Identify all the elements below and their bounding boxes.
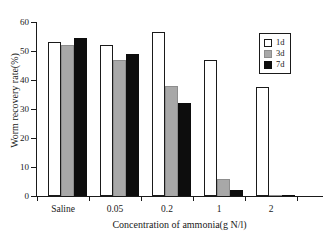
bar-3d-Saline xyxy=(61,45,74,196)
y-tick-label: 60 xyxy=(3,18,29,27)
bar-7d-Saline xyxy=(74,38,87,196)
y-tick-label: 30 xyxy=(3,105,29,114)
bar-7d-2 xyxy=(282,195,295,196)
y-tick-label: 50 xyxy=(3,47,29,56)
bar-1d-2 xyxy=(256,87,269,196)
y-tick xyxy=(31,196,36,197)
legend-item-7d: 7d xyxy=(264,59,285,70)
x-tick-label-Saline: Saline xyxy=(33,204,93,214)
bar-7d-1 xyxy=(230,190,243,196)
x-axis-line xyxy=(36,196,323,197)
bar-3d-1 xyxy=(217,179,230,196)
y-tick xyxy=(31,167,36,168)
y-tick xyxy=(31,138,36,139)
bar-group-bars xyxy=(48,22,87,196)
legend: 1d3d7d xyxy=(259,33,291,74)
bar-3d-2 xyxy=(269,195,282,196)
legend-item-1d: 1d xyxy=(264,37,285,48)
bar-3d-0.2 xyxy=(165,86,178,196)
legend-item-3d: 3d xyxy=(264,48,285,59)
y-tick-label: 10 xyxy=(3,163,29,172)
legend-label-3d: 3d xyxy=(276,49,285,58)
y-tick xyxy=(31,109,36,110)
x-axis-title: Concentration of ammonia(g N/l) xyxy=(36,219,323,230)
x-tick xyxy=(37,196,38,201)
y-tick-label: 20 xyxy=(3,134,29,143)
legend-label-1d: 1d xyxy=(276,38,285,47)
y-tick xyxy=(31,22,36,23)
bar-7d-0.2 xyxy=(178,103,191,196)
bar-3d-0.05 xyxy=(113,60,126,196)
bar-7d-0.05 xyxy=(126,54,139,196)
x-tick xyxy=(245,196,246,201)
bar-group-bars xyxy=(152,22,191,196)
x-tick xyxy=(193,196,194,201)
y-tick-label: 0 xyxy=(3,192,29,201)
y-tick xyxy=(31,80,36,81)
bar-1d-Saline xyxy=(48,42,61,196)
y-tick xyxy=(31,51,36,52)
x-tick xyxy=(141,196,142,201)
bar-chart: Worm recovery rate(%) Concentration of a… xyxy=(0,7,328,243)
y-tick-label: 40 xyxy=(3,76,29,85)
bar-1d-0.05 xyxy=(100,45,113,196)
x-tick xyxy=(89,196,90,201)
x-tick-label-1: 1 xyxy=(189,204,249,214)
top-cutoff-caption xyxy=(0,0,328,7)
legend-swatch-3d xyxy=(264,50,272,58)
bar-group-bars xyxy=(204,22,243,196)
x-tick-label-0.05: 0.05 xyxy=(85,204,145,214)
bar-group-bars xyxy=(100,22,139,196)
x-tick xyxy=(297,196,298,201)
legend-swatch-1d xyxy=(264,39,272,47)
x-tick-label-2: 2 xyxy=(241,204,301,214)
legend-swatch-7d xyxy=(264,61,272,69)
bar-1d-0.2 xyxy=(152,32,165,196)
x-tick-label-0.2: 0.2 xyxy=(137,204,197,214)
bar-1d-1 xyxy=(204,60,217,196)
legend-label-7d: 7d xyxy=(276,60,285,69)
